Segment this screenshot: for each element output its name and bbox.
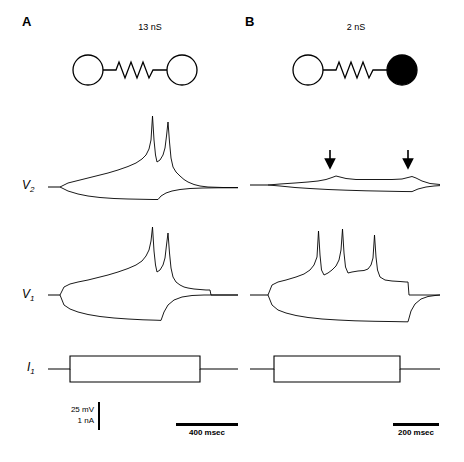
panel-letter-a: A [22, 14, 31, 29]
row-label-i1-subscript: 1 [30, 367, 34, 376]
figure-container: A 13 nS B 2 nS [0, 0, 464, 462]
row-label-v1-text: V [22, 287, 30, 301]
time-bar-label-a: 400 msec [166, 428, 248, 437]
row-label-v2: V2 [22, 178, 34, 194]
row-label-v1-subscript: 1 [30, 294, 34, 303]
row-label-v1: V1 [22, 287, 34, 303]
cell-1-circle-a [73, 55, 103, 85]
scale-label-voltage: 25 mV [48, 404, 94, 415]
trace-v1-a [48, 225, 238, 335]
panel-letter-b: B [245, 14, 254, 29]
time-bar-label-b: 200 msec [375, 428, 457, 437]
trace-v1-b [250, 225, 440, 335]
resistor-symbol-a [103, 62, 167, 78]
scale-bar-vertical [98, 402, 100, 430]
resistor-symbol-b [323, 62, 387, 78]
scale-label-current: 1 nA [48, 415, 94, 426]
conductance-label-b: 2 nS [328, 22, 384, 32]
cell-1-circle-b [293, 55, 323, 85]
time-bar-b [393, 423, 439, 426]
trace-v2-b [250, 150, 440, 210]
time-bar-a [176, 423, 238, 426]
row-label-i1: I1 [27, 360, 35, 376]
row-label-v2-subscript: 2 [30, 185, 34, 194]
trace-v2-a [48, 110, 238, 210]
trace-i1-a [48, 352, 238, 386]
row-label-v2-text: V [22, 178, 30, 192]
cell-2-circle-b-filled [387, 55, 417, 85]
schematic-b [290, 48, 420, 92]
schematic-a [70, 48, 200, 92]
conductance-label-a: 13 nS [120, 22, 180, 32]
trace-i1-b [250, 352, 440, 386]
cell-2-circle-a [167, 55, 197, 85]
